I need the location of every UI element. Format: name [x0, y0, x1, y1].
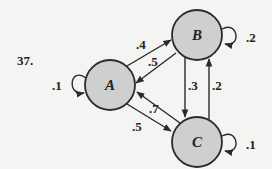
edge-label-c-to-a: .7: [149, 101, 159, 116]
edge-label-b-to-c: .3: [188, 78, 198, 93]
node-b-label: B: [191, 27, 202, 43]
edge-label-c-to-b: .2: [212, 78, 222, 93]
loop-label-b: .2: [246, 30, 256, 45]
self-loop-b: [222, 27, 236, 44]
edge-label-a-to-c: .5: [132, 119, 142, 134]
node-a-label: A: [104, 77, 115, 93]
loop-label-a: .1: [52, 78, 62, 93]
self-loop-a: [72, 75, 86, 93]
node-b: B: [172, 10, 222, 60]
node-a: A: [85, 60, 135, 110]
node-c: C: [172, 117, 222, 167]
loop-label-c: .1: [246, 137, 256, 152]
edge-label-a-to-b: .4: [136, 37, 146, 52]
node-c-label: C: [192, 134, 203, 150]
markov-diagram: A B C .4 .5 .3 .2 .7 .5 .1 .2 .1: [0, 0, 272, 169]
self-loop-c: [222, 134, 236, 151]
edge-label-b-to-a: .5: [148, 54, 158, 69]
